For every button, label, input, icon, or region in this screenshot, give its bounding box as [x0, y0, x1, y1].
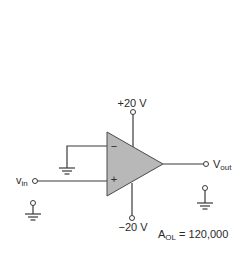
inverting-input-ground	[59, 146, 107, 174]
input-terminal	[33, 179, 38, 184]
inverting-input-wire	[67, 146, 107, 168]
inverting-pin-symbol: −	[111, 140, 117, 152]
opamp-circuit-diagram: +20 V −20 V vin − + Vout	[0, 0, 244, 254]
input-vin: vin	[16, 174, 107, 188]
output-ground-terminal	[203, 186, 208, 191]
input-ground-terminal	[31, 201, 36, 206]
negative-supply-label: −20 V	[118, 221, 148, 233]
input-label: vin	[16, 174, 28, 188]
positive-supply-label: +20 V	[117, 97, 147, 109]
output-vout: Vout	[163, 158, 232, 172]
opamp: − +	[107, 132, 163, 196]
output-terminal	[204, 162, 209, 167]
open-loop-gain-label: AOL = 120,000	[158, 228, 228, 242]
output-ground	[197, 186, 213, 210]
output-label: Vout	[213, 158, 232, 172]
negative-supply-terminal	[130, 216, 135, 221]
noninverting-pin-symbol: +	[111, 173, 117, 185]
positive-supply: +20 V	[117, 97, 147, 147]
negative-supply: −20 V	[118, 183, 148, 233]
input-ground	[25, 201, 41, 221]
positive-supply-terminal	[131, 110, 136, 115]
